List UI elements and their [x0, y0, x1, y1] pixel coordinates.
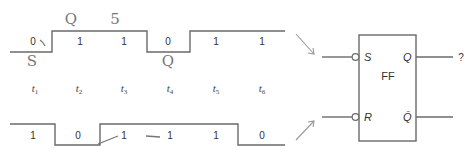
- s-value-t6: 1: [259, 36, 265, 47]
- s-value-t2: 1: [77, 36, 83, 47]
- s-value-t5: 1: [213, 36, 219, 47]
- s-inversion-bubble-icon: [352, 54, 359, 61]
- r-value-t3: 1: [121, 130, 127, 141]
- r-value-t1: 1: [30, 130, 36, 141]
- s-input-waveform: [10, 31, 285, 52]
- handwritten-annotations: Q 5 S Q: [27, 10, 174, 70]
- time-label-t1: t1: [32, 82, 39, 96]
- time-label-t5: t5: [213, 82, 220, 96]
- r-value-t2: 0: [75, 130, 81, 141]
- handwritten-q-top: Q: [65, 10, 77, 28]
- r-value-t5: 1: [213, 130, 219, 141]
- flip-flop-label: FF: [381, 70, 395, 82]
- arrow-to-r: [296, 121, 314, 140]
- s-value-t3: 1: [121, 36, 127, 47]
- arrow-to-s: [296, 34, 314, 54]
- q-pin-label: Q: [403, 51, 412, 63]
- time-labels: t1 t2 t3 t4 t5 t6: [32, 82, 266, 96]
- handwritten-q-bottom: Q: [162, 52, 174, 70]
- time-label-t2: t2: [76, 82, 83, 96]
- r-inversion-bubble-icon: [352, 114, 359, 121]
- s-value-t1: 0: [30, 36, 36, 47]
- r-value-t6: 0: [259, 130, 265, 141]
- q-output-unknown: ?: [458, 52, 464, 63]
- handwritten-s-bottom: S: [27, 52, 37, 70]
- s-value-t4: 0: [165, 36, 171, 47]
- s-waveform-values: 0 1 1 0 1 1: [30, 36, 265, 47]
- handwritten-5-top: 5: [110, 10, 120, 28]
- flip-flop: S R Q Q̄ FF ?: [322, 35, 464, 141]
- r-input-waveform: [10, 124, 285, 145]
- time-label-t4: t4: [167, 82, 174, 96]
- handwritten-tick-mark: [40, 40, 45, 46]
- sr-flip-flop-diagram: 0 1 1 0 1 1 Q 5 S Q t1 t2 t3 t4 t5 t6 1 …: [0, 0, 472, 152]
- handwritten-stroke: [98, 136, 118, 144]
- q-bar-pin-label: Q̄: [403, 111, 412, 123]
- time-label-t3: t3: [121, 82, 128, 96]
- s-pin-label: S: [364, 51, 372, 63]
- handwritten-stroke: [146, 136, 160, 137]
- time-label-t6: t6: [259, 82, 266, 96]
- r-pin-label: R: [364, 111, 372, 123]
- r-value-t4: 1: [167, 130, 173, 141]
- arrows: [296, 34, 314, 140]
